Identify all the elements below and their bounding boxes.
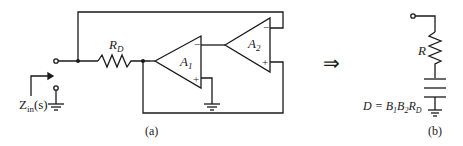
a2-plus: + <box>262 56 268 68</box>
caption-b: (b) <box>428 124 442 138</box>
ground-symbol-a1 <box>204 104 220 110</box>
resistor-r <box>429 32 441 78</box>
circuit-diagram: RD A1 − + A2 − + Zin(s) (a) ⇒ R D = B1B2… <box>0 0 463 146</box>
label-d: D = B1B2RD <box>362 99 422 115</box>
label-r: R <box>417 43 426 58</box>
label-rd: RD <box>108 37 124 54</box>
label-zin: Zin(s) <box>19 97 48 114</box>
ground-symbol-b <box>428 110 442 116</box>
a1-minus: − <box>194 38 200 50</box>
a1-plus: + <box>193 73 199 85</box>
caption-a: (a) <box>145 124 158 138</box>
ground-symbol-input <box>48 104 64 110</box>
implies-arrow: ⇒ <box>323 52 340 74</box>
fdnr-symbol <box>424 79 446 110</box>
input-terminal <box>54 59 58 63</box>
input-terminal-b <box>411 14 415 18</box>
a2-minus: − <box>263 21 269 33</box>
